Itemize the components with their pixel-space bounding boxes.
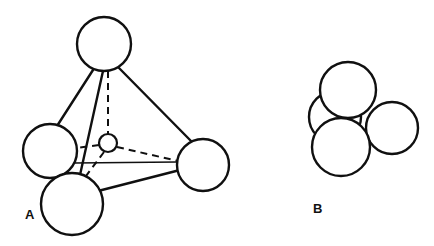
sphere-interstitial-center [99, 134, 117, 152]
bond-top-right [119, 68, 192, 142]
sphere-left [23, 124, 77, 178]
sphere-top [320, 62, 376, 118]
panel-b-group: B [309, 62, 418, 216]
panel-a-group: A [23, 17, 229, 235]
panel-label-a: A [25, 207, 35, 222]
sphere-right [366, 102, 418, 154]
panel-label-b: B [313, 201, 322, 216]
bond-center-right-hidden [117, 147, 178, 161]
sphere-bottom [41, 173, 103, 235]
sphere-front [312, 118, 370, 176]
sphere-top [77, 17, 131, 71]
figure-canvas: A B [0, 0, 434, 246]
bond-bottom-right [98, 170, 180, 191]
bond-left-right-behind [74, 162, 177, 163]
panel-a-spheres [23, 17, 229, 235]
bond-top-left [57, 70, 93, 126]
panel-b-spheres [309, 62, 418, 176]
molecular-structure-figure: A B [0, 0, 434, 246]
sphere-right [177, 139, 229, 191]
